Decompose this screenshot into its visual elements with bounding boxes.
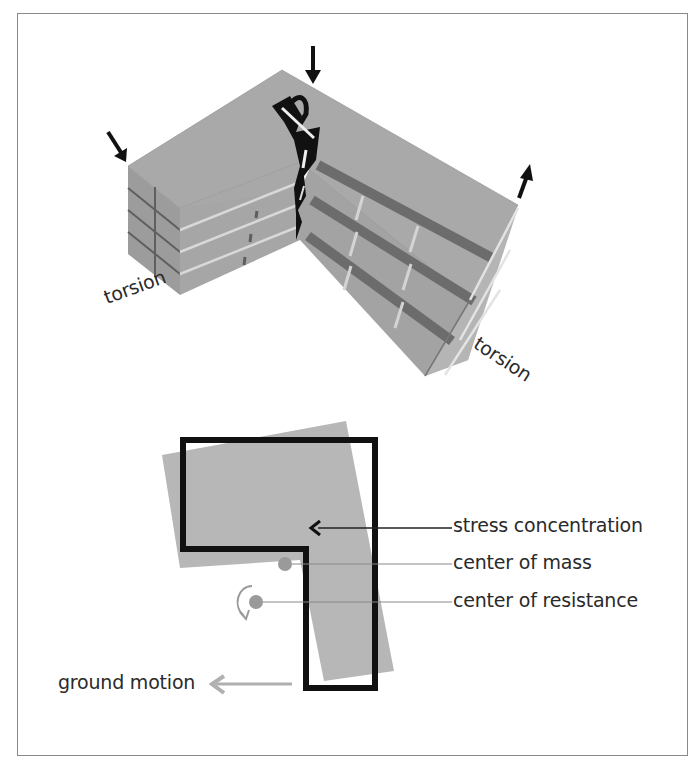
center-of-resistance-label: center of resistance <box>453 589 638 611</box>
building-3d <box>128 70 518 376</box>
center-of-resistance-marker <box>249 595 263 609</box>
arrow-down-center-icon <box>305 46 321 84</box>
plan-view <box>162 421 452 693</box>
arrow-down-left-icon <box>108 132 127 162</box>
diagram-canvas <box>0 0 700 775</box>
ground-motion-label: ground motion <box>58 671 195 693</box>
stress-concentration-label: stress concentration <box>453 514 643 536</box>
center-of-mass-marker <box>278 557 292 571</box>
center-of-mass-label: center of mass <box>453 551 592 573</box>
ground-motion-arrow-icon <box>212 676 292 693</box>
arrow-up-right-icon <box>519 164 533 198</box>
